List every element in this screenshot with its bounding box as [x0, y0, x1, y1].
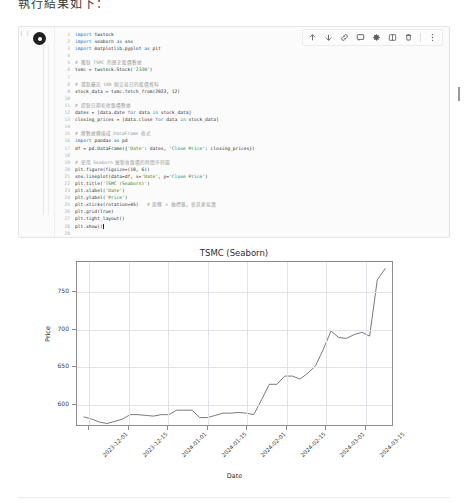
x-tick-mark	[365, 426, 366, 430]
code-text: plt.ylabel('Price')	[75, 195, 128, 200]
code-text: import twstock	[75, 32, 114, 37]
code-text: sns.lineplot(data=df, x='Date', y='Close…	[75, 174, 208, 179]
code-line[interactable]: 29	[59, 230, 445, 237]
line-number: 20	[59, 166, 70, 173]
code-text: df = pd.DataFrame({'Date': dates, 'Close…	[75, 146, 255, 151]
cell-scrollbar[interactable]	[458, 87, 460, 101]
line-number: 17	[59, 145, 70, 152]
gridline-vertical	[208, 262, 209, 425]
x-tick-label: 2024-02-01	[260, 431, 287, 458]
code-text: # 將數據轉換成 DataFrame 格式	[75, 131, 151, 136]
code-text: closing_prices = [data.close for data in…	[75, 117, 219, 122]
line-number: 26	[59, 208, 70, 215]
code-fold-rail-secondary	[48, 45, 49, 215]
code-line[interactable]: 15# 將數據轉換成 DataFrame 格式	[59, 130, 445, 137]
gridline-vertical	[168, 262, 169, 425]
code-editor[interactable]: 1import twstock2import seaborn as sns3im…	[59, 31, 445, 237]
code-text: dates = [data.date for data in stock_dat…	[75, 110, 191, 115]
line-number: 15	[59, 130, 70, 137]
result-caption: 執行結果如下：	[18, 0, 109, 11]
code-line[interactable]: 8# 選取最近 100 個交易日的股價資料	[59, 81, 445, 88]
code-text: plt.xticks(rotation=45) # 旋轉 x 軸標籤，使其更易讀	[75, 202, 216, 207]
code-line[interactable]: 3import matplotlib.pyplot as plt	[59, 45, 445, 52]
gridline-vertical	[326, 262, 327, 425]
gridline-horizontal	[77, 405, 392, 406]
gridline-vertical	[287, 262, 288, 425]
code-line[interactable]: 21sns.lineplot(data=df, x='Date', y='Clo…	[59, 173, 445, 180]
code-line[interactable]: 1import twstock	[59, 31, 445, 38]
line-number: 12	[59, 109, 70, 116]
x-tick-label: 2024-02-15	[299, 431, 326, 458]
y-tick-mark	[72, 366, 76, 367]
code-line[interactable]: 20plt.figure(figsize=(10, 6))	[59, 166, 445, 173]
line-number: 5	[59, 59, 70, 66]
line-number: 25	[59, 201, 70, 208]
line-number: 9	[59, 88, 70, 95]
x-tick-mark	[246, 426, 247, 430]
y-tick-mark	[72, 329, 76, 330]
code-text: plt.tight_layout()	[75, 216, 125, 221]
gridline-horizontal	[77, 330, 392, 331]
line-number: 19	[59, 159, 70, 166]
code-line[interactable]: 10	[59, 95, 445, 102]
line-number: 11	[59, 102, 70, 109]
line-number: 18	[59, 152, 70, 159]
code-line[interactable]: 18	[59, 152, 445, 159]
code-line[interactable]: 19# 使用 Seaborn 繪製收盤價的時間序列圖	[59, 159, 445, 166]
line-number: 21	[59, 173, 70, 180]
code-line[interactable]: 28plt.show()	[59, 223, 445, 230]
x-tick-label: 2024-03-01	[339, 431, 366, 458]
y-tick-label: 650	[29, 362, 69, 369]
code-text: plt.figure(figsize=(10, 6))	[75, 167, 150, 172]
code-fold-rail	[43, 45, 44, 215]
x-tick-mark	[286, 426, 287, 430]
code-line[interactable]: 17df = pd.DataFrame({'Date': dates, 'Clo…	[59, 145, 445, 152]
y-tick-mark	[72, 404, 76, 405]
code-line[interactable]: 23plt.xlabel('Date')	[59, 187, 445, 194]
code-line[interactable]: 24plt.ylabel('Price')	[59, 194, 445, 201]
code-line[interactable]: 6tsmc = twstock.Stock('2330')	[59, 66, 445, 73]
run-cell-button[interactable]	[33, 32, 46, 45]
gridline-vertical	[129, 262, 130, 425]
code-line[interactable]: 14	[59, 123, 445, 130]
code-text: # 提取日期和收盤價數據	[75, 103, 131, 108]
y-tick-label: 600	[29, 400, 69, 407]
code-line[interactable]: 7	[59, 74, 445, 81]
code-text: plt.grid(True)	[75, 209, 114, 214]
code-line[interactable]: 27plt.tight_layout()	[59, 215, 445, 222]
code-line[interactable]: 11# 提取日期和收盤價數據	[59, 102, 445, 109]
code-text: import seaborn as sns	[75, 39, 133, 44]
line-number: 1	[59, 31, 70, 38]
x-tick-mark	[207, 426, 208, 430]
code-text: # 使用 Seaborn 繪製收盤價的時間序列圖	[75, 160, 170, 165]
code-line[interactable]: 25plt.xticks(rotation=45) # 旋轉 x 軸標籤，使其更…	[59, 201, 445, 208]
x-tick-label: 2024-01-01	[181, 431, 208, 458]
code-cell[interactable]: [ ]	[18, 26, 450, 238]
code-line[interactable]: 4	[59, 52, 445, 59]
line-number: 4	[59, 52, 70, 59]
code-line[interactable]: 9stock_data = tsmc.fetch_from(2023, 12)	[59, 88, 445, 95]
line-number: 14	[59, 123, 70, 130]
line-number: 8	[59, 81, 70, 88]
line-number: 13	[59, 116, 70, 123]
line-number: 3	[59, 45, 70, 52]
code-text: plt.xlabel('Date')	[75, 188, 125, 193]
code-text: import pandas as pd	[75, 138, 128, 143]
code-line[interactable]: 13closing_prices = [data.close for data …	[59, 116, 445, 123]
x-tick-label: 2023-12-15	[141, 431, 168, 458]
code-line[interactable]: 22plt.title('TSMC (Seaborn)')	[59, 180, 445, 187]
x-tick-label: 2024-01-15	[220, 431, 247, 458]
code-line[interactable]: 12dates = [data.date for data in stock_d…	[59, 109, 445, 116]
text-caret	[103, 224, 104, 229]
y-tick-label: 750	[29, 287, 69, 294]
code-line[interactable]: 16import pandas as pd	[59, 137, 445, 144]
line-number: 28	[59, 223, 70, 230]
line-number: 10	[59, 95, 70, 102]
gridline-horizontal	[77, 292, 392, 293]
gridline-horizontal	[77, 367, 392, 368]
cell-gutter: [ ]	[19, 27, 55, 237]
code-line[interactable]: 26plt.grid(True)	[59, 208, 445, 215]
code-line[interactable]: 5# 獲取 TSMC 的歷史股價數據	[59, 59, 445, 66]
line-number: 7	[59, 74, 70, 81]
code-line[interactable]: 2import seaborn as sns	[59, 38, 445, 45]
